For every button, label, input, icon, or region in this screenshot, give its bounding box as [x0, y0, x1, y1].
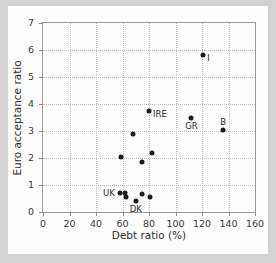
- data-point-label-dk: DK: [130, 205, 142, 214]
- data-point: [124, 195, 129, 200]
- gridline-vertical: [96, 23, 97, 212]
- gridline-vertical: [123, 23, 124, 212]
- x-tick-label: 160: [246, 219, 264, 229]
- data-point: [119, 154, 124, 159]
- x-tick: [96, 212, 97, 216]
- y-tick: [39, 158, 43, 159]
- x-tick: [123, 212, 124, 216]
- y-tick-label: 3: [28, 126, 34, 136]
- y-tick: [39, 131, 43, 132]
- x-tick: [43, 212, 44, 216]
- x-tick: [202, 212, 203, 216]
- gridline-horizontal: [43, 158, 255, 159]
- gridline-vertical: [229, 23, 230, 212]
- y-axis-title: Euro acceptance ratio: [10, 22, 24, 213]
- gridline-vertical: [70, 23, 71, 212]
- y-tick: [39, 104, 43, 105]
- y-tick: [39, 185, 43, 186]
- y-tick: [39, 50, 43, 51]
- data-point-gr: [189, 115, 194, 120]
- y-axis-title-text: Euro acceptance ratio: [11, 60, 23, 175]
- y-tick-label: 0: [28, 207, 34, 217]
- x-axis-title: Debt ratio (%): [42, 230, 256, 241]
- y-tick-label: 6: [28, 45, 34, 55]
- scatter-chart-figure: Euro acceptance ratio IIREGRBUKDK 020406…: [8, 6, 268, 254]
- gridline-horizontal: [43, 50, 255, 51]
- y-tick: [39, 77, 43, 78]
- y-tick: [39, 212, 43, 213]
- gridline-vertical: [149, 23, 150, 212]
- data-point: [140, 191, 145, 196]
- data-point: [140, 160, 145, 165]
- x-axis-title-text: Debt ratio (%): [112, 229, 186, 241]
- data-point-label-i: I: [207, 53, 210, 62]
- data-point-label-b: B: [220, 118, 226, 127]
- data-point-uk: [117, 191, 122, 196]
- data-point-i: [201, 52, 206, 57]
- y-tick: [39, 23, 43, 24]
- x-tick-label: 100: [166, 219, 184, 229]
- x-tick: [255, 212, 256, 216]
- page-background: Euro acceptance ratio IIREGRBUKDK 020406…: [0, 0, 276, 263]
- y-tick-label: 1: [28, 180, 34, 190]
- x-tick-label: 60: [116, 219, 128, 229]
- y-tick-label: 2: [28, 153, 34, 163]
- data-point: [131, 132, 136, 137]
- x-tick-label: 140: [219, 219, 237, 229]
- gridline-horizontal: [43, 104, 255, 105]
- figure-paper: Euro acceptance ratio IIREGRBUKDK 020406…: [8, 6, 268, 254]
- y-tick-label: 5: [28, 72, 34, 82]
- data-point-label-gr: GR: [185, 122, 198, 131]
- gridline-horizontal: [43, 77, 255, 78]
- data-point: [149, 151, 154, 156]
- x-tick: [229, 212, 230, 216]
- data-point-label-ire: IRE: [153, 110, 167, 119]
- x-tick-label: 40: [90, 219, 102, 229]
- x-tick: [70, 212, 71, 216]
- x-tick: [176, 212, 177, 216]
- gridline-horizontal: [43, 185, 255, 186]
- x-tick: [149, 212, 150, 216]
- x-tick-label: 80: [143, 219, 155, 229]
- gridline-vertical: [176, 23, 177, 212]
- data-point: [148, 195, 153, 200]
- x-tick-label: 120: [193, 219, 211, 229]
- x-tick-label: 0: [40, 219, 46, 229]
- data-point-label-uk: UK: [103, 189, 115, 198]
- x-tick-label: 20: [63, 219, 75, 229]
- data-point-dk: [133, 198, 138, 203]
- data-point-ire: [147, 108, 152, 113]
- data-point-b: [221, 128, 226, 133]
- y-tick-label: 4: [28, 99, 34, 109]
- plot-area: IIREGRBUKDK 020406080100120140160 012345…: [42, 22, 256, 213]
- y-tick-label: 7: [28, 18, 34, 28]
